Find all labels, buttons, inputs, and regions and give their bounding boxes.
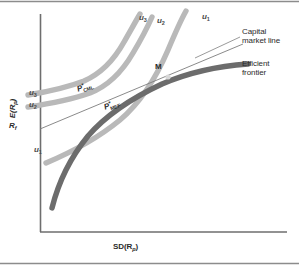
annotation-cml-line2: market line [242, 37, 280, 46]
curve-label-u2-top: u2 [157, 17, 165, 26]
risk-free-rate-label: Rf [9, 122, 16, 131]
curve-label-u1-top: u1 [202, 13, 210, 22]
curve-label-u3-left: u3 [29, 89, 37, 98]
market-portfolio-label: M [155, 63, 162, 72]
indifference-curves-group [28, 11, 186, 163]
annotation-capital-market-line: Capital market line [242, 28, 280, 46]
figure-container: E(Rp) SD(Rp) Rf u3 u2 u1 u3 u2 u1 P*CML … [0, 0, 299, 265]
x-axis-label: SD(Rp) [113, 243, 138, 252]
curve-label-u3-top: u3 [139, 14, 147, 23]
annotation-ef-line2: frontier [242, 69, 269, 78]
annotation-efficient-frontier: Efficient frontier [242, 60, 269, 78]
curve-label-u2-left: u2 [29, 101, 37, 110]
curve-label-u1-left: u1 [34, 146, 42, 155]
market-portfolio-point [165, 74, 170, 79]
